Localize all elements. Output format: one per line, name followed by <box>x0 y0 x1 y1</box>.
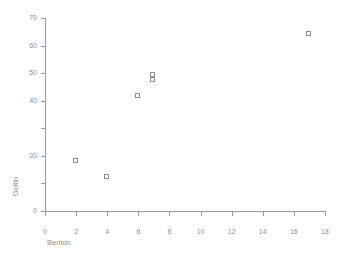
data-point <box>135 93 140 98</box>
x-tick <box>294 212 295 216</box>
x-tick <box>107 212 108 216</box>
x-tick-label: 8 <box>159 228 179 236</box>
y-tick <box>41 18 45 19</box>
x-tick <box>76 212 77 216</box>
y-tick-label: 50 <box>15 69 37 77</box>
x-tick <box>138 212 139 216</box>
y-tick-label: 40 <box>15 97 37 105</box>
x-tick-label: 16 <box>284 228 304 236</box>
x-tick <box>263 212 264 216</box>
y-tick <box>41 128 45 129</box>
x-tick <box>325 212 326 216</box>
y-axis-title: Goltin <box>11 167 20 207</box>
x-tick-label: 2 <box>66 228 86 236</box>
x-tick-label: 18 <box>315 228 335 236</box>
y-tick-label: 0 <box>15 207 37 215</box>
y-tick <box>41 156 45 157</box>
y-tick <box>41 73 45 74</box>
y-tick-label: 20 <box>15 152 37 160</box>
x-tick-label: 14 <box>253 228 273 236</box>
y-tick <box>41 183 45 184</box>
y-axis-line <box>45 18 46 212</box>
x-tick <box>232 212 233 216</box>
scatter-plot-figure: 02040506070 024681012141618 Benton Golti… <box>0 0 343 253</box>
data-point <box>104 174 109 179</box>
y-tick <box>41 101 45 102</box>
x-axis-title: Benton <box>47 238 71 247</box>
y-tick-label: 60 <box>15 42 37 50</box>
y-tick <box>41 46 45 47</box>
data-point <box>306 31 311 36</box>
x-tick-label: 0 <box>35 228 55 236</box>
data-point <box>73 158 78 163</box>
x-tick-label: 10 <box>191 228 211 236</box>
x-tick-label: 4 <box>97 228 117 236</box>
x-tick-label: 12 <box>222 228 242 236</box>
x-tick <box>45 212 46 216</box>
x-axis-line <box>45 211 326 212</box>
y-tick-label: 70 <box>15 14 37 22</box>
x-tick <box>201 212 202 216</box>
x-tick <box>169 212 170 216</box>
x-tick-label: 6 <box>128 228 148 236</box>
data-point <box>150 77 155 82</box>
